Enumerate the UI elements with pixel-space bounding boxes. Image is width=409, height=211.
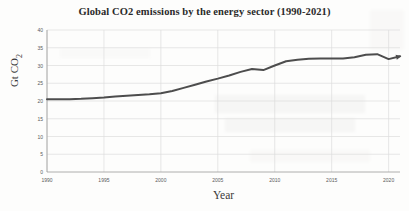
- data-series-line: [47, 54, 400, 99]
- y-tick-label: 25: [37, 80, 43, 86]
- x-tick-label: 1995: [98, 177, 109, 183]
- x-tick-label: 2005: [212, 177, 223, 183]
- y-tick-label: 30: [37, 63, 43, 69]
- y-axis-tick-labels: 4035302520151050: [37, 27, 43, 175]
- y-tick-label: 10: [37, 134, 43, 140]
- chart-figure: Global CO2 emissions by the energy secto…: [0, 0, 409, 211]
- x-tick-label: 1990: [41, 177, 52, 183]
- x-axis-tick-labels: 1990199520002005201020152020: [41, 177, 394, 183]
- x-tick-label: 2010: [269, 177, 280, 183]
- plot-area: 4035302520151050 19901995200020052010201…: [0, 0, 409, 211]
- y-tick-label: 40: [37, 27, 43, 33]
- x-tick-label: 2015: [326, 177, 337, 183]
- y-tick-label: 35: [37, 45, 43, 51]
- y-tick-label: 5: [40, 151, 43, 157]
- x-tick-label: 2020: [383, 177, 394, 183]
- horizontal-gridlines: [47, 30, 400, 172]
- y-tick-label: 20: [37, 98, 43, 104]
- x-tick-label: 2000: [155, 177, 166, 183]
- line-end-arrowhead: [396, 55, 402, 60]
- y-tick-label: 15: [37, 116, 43, 122]
- y-tick-label: 0: [40, 169, 43, 175]
